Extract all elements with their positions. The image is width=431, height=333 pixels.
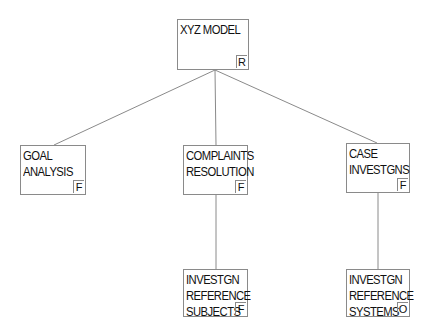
node-goal-analysis[interactable]: GOAL ANALYSIS F xyxy=(20,145,86,195)
node-type-badge: F xyxy=(397,178,408,191)
node-label: CASE INVESTGNS xyxy=(349,146,409,178)
node-type-badge: F xyxy=(73,180,84,193)
node-type-badge: O xyxy=(397,302,408,315)
node-investgn-reference-systems[interactable]: INVESTGN REFERENCE SYSTEMS O xyxy=(346,269,410,317)
edge-root-case xyxy=(215,70,377,143)
node-label: COMPLAINTS RESOLUTION xyxy=(186,148,254,180)
node-label: GOAL ANALYSIS xyxy=(23,148,73,180)
edge-root-goal xyxy=(54,70,215,145)
node-xyz-model[interactable]: XYZ MODEL R xyxy=(177,19,249,70)
edge-root-complaints xyxy=(215,70,216,145)
node-label: XYZ MODEL xyxy=(180,22,240,38)
node-type-badge: F xyxy=(235,180,246,193)
node-complaints-resolution[interactable]: COMPLAINTS RESOLUTION F xyxy=(183,145,248,195)
node-type-badge: F xyxy=(235,302,246,315)
node-investgn-reference-subjects[interactable]: INVESTGN REFERENCE SUBJECTS F xyxy=(183,269,248,317)
node-case-investgns[interactable]: CASE INVESTGNS F xyxy=(346,143,410,193)
node-type-badge: R xyxy=(236,55,247,68)
diagram-canvas: XYZ MODEL R GOAL ANALYSIS F COMPLAINTS R… xyxy=(0,0,431,333)
